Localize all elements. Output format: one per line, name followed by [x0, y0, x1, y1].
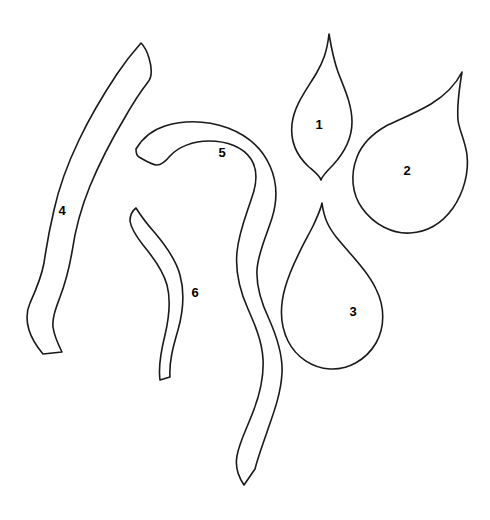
shape-outline-1[interactable]: [292, 34, 352, 180]
shape-outline-group: [27, 34, 468, 485]
shape-outline-4[interactable]: [27, 43, 151, 354]
shape-label-3: 3: [349, 305, 356, 318]
shape-label-2: 2: [403, 164, 410, 177]
shape-outline-2[interactable]: [353, 72, 468, 233]
shape-diagram-canvas: 1 2 3 4 5 6: [0, 0, 490, 520]
shape-label-6: 6: [191, 286, 198, 299]
shape-outline-6[interactable]: [130, 208, 183, 380]
shape-outline-5[interactable]: [136, 122, 282, 485]
shape-outline-3[interactable]: [282, 203, 383, 369]
shape-label-4: 4: [58, 204, 65, 217]
shape-label-5: 5: [218, 146, 225, 159]
shape-label-1: 1: [315, 118, 322, 131]
shape-outlines-svg: [0, 0, 490, 520]
